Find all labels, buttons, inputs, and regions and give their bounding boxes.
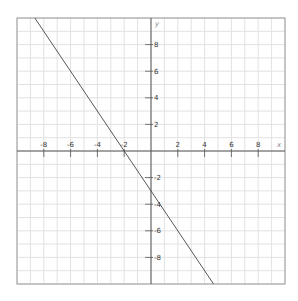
coordinate-plane: -8-6-4-22468-8-6-4-22468 x y [0,0,298,301]
y-tick-label: -8 [154,254,161,262]
x-tick-label: -4 [94,141,102,149]
x-tick-label: 8 [256,141,260,149]
x-tick-label: -6 [67,141,75,149]
x-tick-label: 4 [202,141,207,149]
y-tick-label: -2 [154,174,161,182]
y-tick-label: 6 [154,68,159,76]
y-tick-label: 8 [154,41,158,49]
y-tick-label: -6 [154,227,162,235]
y-tick-label: 4 [154,94,159,102]
x-axis-label: x [276,141,282,149]
x-tick-label: 6 [229,141,234,149]
x-tick-label: 2 [176,141,180,149]
y-tick-label: 2 [154,121,158,129]
y-axis-label: y [154,20,160,28]
x-tick-label: -8 [40,141,47,149]
